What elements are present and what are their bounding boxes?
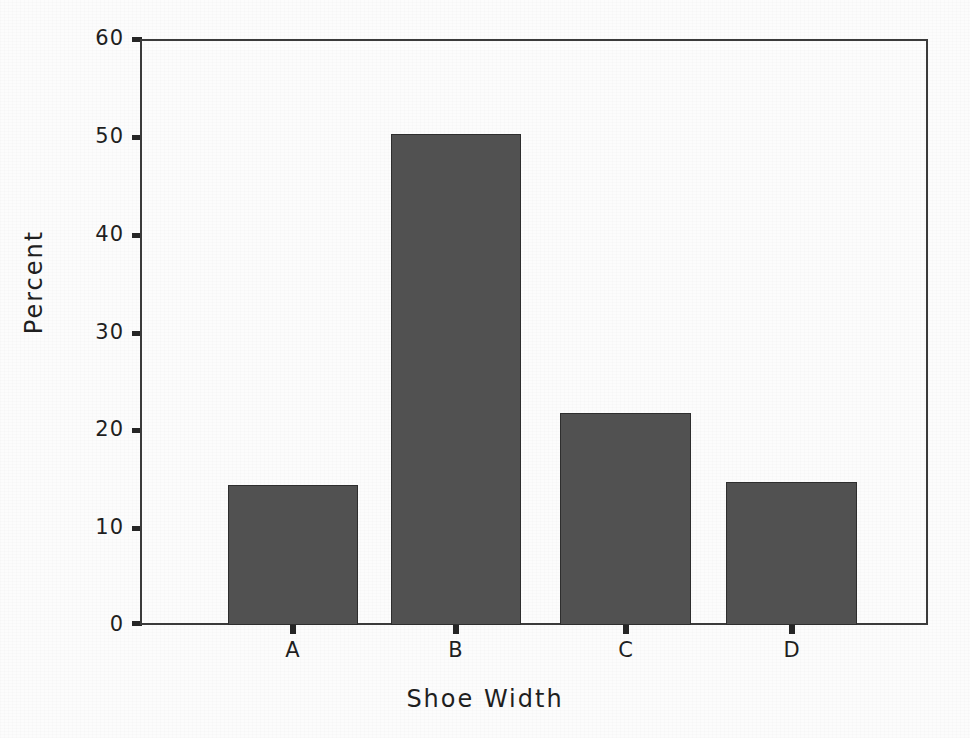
y-tick-label-10: 10 — [68, 515, 124, 539]
y-tick-label-40: 40 — [68, 222, 124, 246]
y-axis-title: Percent — [20, 202, 48, 362]
y-tick-label-60-wrap: 60 — [60, 26, 124, 52]
x-tick-mark-D — [789, 625, 795, 634]
x-tick-label-A: A — [263, 638, 323, 662]
x-tick-mark-A — [290, 625, 296, 634]
x-tick-label-B: B — [426, 638, 486, 662]
x-tick-mark-C — [623, 625, 629, 634]
bar-A — [228, 485, 358, 625]
y-tick-label-20-wrap: 20 — [60, 417, 124, 443]
y-tick-label-40-wrap: 40 — [60, 222, 124, 248]
bar-chart-figure: 60 50 40 30 20 10 0 A B C D Percent Sho — [0, 0, 970, 738]
y-tick-label-0: 0 — [68, 612, 124, 636]
x-axis-title: Shoe Width — [0, 685, 970, 713]
bar-C — [560, 413, 691, 625]
y-tick-label-50: 50 — [68, 124, 124, 148]
x-tick-mark-B — [453, 625, 459, 634]
y-tick-label-0-wrap: 0 — [60, 612, 124, 638]
y-tick-label-20: 20 — [68, 417, 124, 441]
y-tick-label-10-wrap: 10 — [60, 515, 124, 541]
x-tick-label-C: C — [596, 638, 656, 662]
y-tick-label-50-wrap: 50 — [60, 124, 124, 150]
y-tick-label-60: 60 — [68, 26, 124, 50]
x-tick-label-D: D — [762, 638, 822, 662]
bar-B — [391, 134, 521, 625]
plot-area — [140, 39, 928, 625]
y-tick-label-30: 30 — [68, 320, 124, 344]
bar-D — [726, 482, 857, 625]
y-tick-label-30-wrap: 30 — [60, 320, 124, 346]
